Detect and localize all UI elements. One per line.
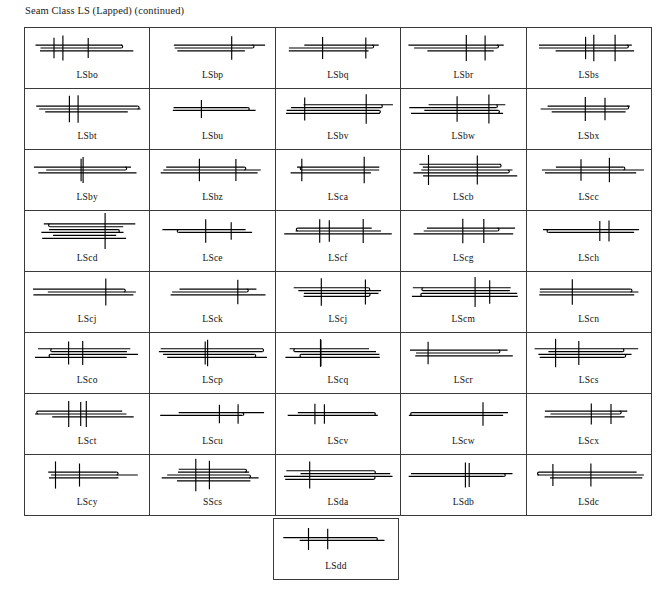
seam-diagram	[279, 90, 397, 132]
seam-cell-inner: LSbr	[401, 28, 525, 88]
seam-cell[interactable]: LScy	[25, 455, 150, 516]
seam-cell[interactable]: LSdb	[401, 455, 526, 516]
seam-diagram	[154, 334, 272, 376]
seam-diagram	[530, 334, 648, 376]
seam-cell[interactable]: LSda	[275, 455, 400, 516]
seam-code-label: LSdc	[578, 497, 599, 508]
seam-code-label: LScw	[452, 436, 475, 447]
seam-cell-inner: LSbs	[527, 28, 651, 88]
seam-cell[interactable]: LSbr	[401, 28, 526, 89]
seam-cell[interactable]: LSbs	[526, 28, 651, 89]
seam-cell[interactable]: LScj	[25, 272, 150, 333]
seam-code-label: LSbw	[452, 131, 476, 142]
seam-code-label: LSct	[78, 436, 97, 447]
seam-cell-inner: LSbv	[276, 89, 400, 149]
seam-cell-inner: LSby	[25, 150, 149, 210]
seam-cell-inner: LSce	[150, 211, 274, 271]
seam-code-label: SScs	[203, 497, 222, 508]
seam-cell[interactable]: SScs	[150, 455, 275, 516]
seam-code-label: LSbv	[327, 131, 348, 142]
seam-code-label: LSbs	[579, 70, 599, 81]
seam-cell[interactable]: LSct	[25, 394, 150, 455]
seam-diagram	[404, 29, 522, 71]
seam-cell[interactable]: LSbq	[275, 28, 400, 89]
seam-cell[interactable]: LScg	[401, 211, 526, 272]
seam-cell[interactable]: LScv	[275, 394, 400, 455]
seam-cell-inner: LScm	[401, 272, 525, 332]
seam-grid-row: LSctLScuLScvLScwLScx	[25, 394, 652, 455]
seam-cell[interactable]: LSbz	[150, 150, 275, 211]
seam-cell[interactable]: LSbw	[401, 89, 526, 150]
seam-cell[interactable]: LSce	[150, 211, 275, 272]
seam-grid-container: LSboLSbpLSbqLSbrLSbsLSbtLSbuLSbvLSbwLSbx…	[24, 27, 646, 516]
seam-cell-inner: LSct	[25, 394, 149, 454]
seam-code-label: LSch	[578, 253, 599, 264]
seam-cell[interactable]: LSco	[25, 333, 150, 394]
seam-diagram	[154, 151, 272, 193]
page-title: Seam Class LS (Lapped) (continued)	[25, 5, 184, 16]
seam-cell-inner: LSca	[276, 150, 400, 210]
seam-grid-row: LSbyLSbzLScaLScbLScc	[25, 150, 652, 211]
seam-cell[interactable]: LSch	[526, 211, 651, 272]
seam-cell[interactable]: LSck	[150, 272, 275, 333]
seam-cell[interactable]: LSbo	[25, 28, 150, 89]
seam-diagram	[404, 456, 522, 498]
seam-cell[interactable]: LSbt	[25, 89, 150, 150]
seam-cell-inner: LSbq	[276, 28, 400, 88]
seam-cell[interactable]: LScp	[150, 333, 275, 394]
seam-cell[interactable]: LScw	[401, 394, 526, 455]
seam-cell[interactable]: LSbx	[526, 89, 651, 150]
seam-code-label: LScc	[579, 192, 599, 203]
seam-cell[interactable]: LSdd	[273, 519, 398, 580]
seam-cell-inner: LScg	[401, 211, 525, 271]
seam-cell[interactable]: LScc	[526, 150, 651, 211]
seam-diagram	[279, 212, 397, 254]
seam-cell[interactable]: LScr	[401, 333, 526, 394]
seam-cell-inner: LSbu	[150, 89, 274, 149]
seam-grid-row: LSboLSbpLSbqLSbrLSbs	[25, 28, 652, 89]
seam-grid-tail-body: LSdd	[273, 519, 398, 580]
seam-diagram	[530, 395, 648, 437]
seam-cell-inner: LScd	[25, 211, 149, 271]
seam-diagram	[530, 90, 648, 132]
seam-cell[interactable]: LScj	[275, 272, 400, 333]
seam-code-label: LScm	[452, 314, 476, 325]
seam-grid-row: LScySScsLSdaLSdbLSdc	[25, 455, 652, 516]
seam-code-label: LScs	[579, 375, 599, 386]
seam-diagram	[404, 212, 522, 254]
seam-diagram	[154, 29, 272, 71]
seam-cell-inner: LScv	[276, 394, 400, 454]
seam-cell[interactable]: LScf	[275, 211, 400, 272]
seam-code-label: LSca	[328, 192, 348, 203]
seam-cell[interactable]: LSdc	[526, 455, 651, 516]
seam-cell[interactable]: LSbv	[275, 89, 400, 150]
seam-cell[interactable]: LSca	[275, 150, 400, 211]
seam-code-label: LSck	[202, 314, 223, 325]
seam-class-page: Seam Class LS (Lapped) (continued) LSboL…	[0, 0, 669, 602]
seam-cell[interactable]: LScn	[526, 272, 651, 333]
seam-code-label: LScp	[202, 375, 223, 386]
seam-code-label: LScb	[453, 192, 474, 203]
seam-cell[interactable]: LSbp	[150, 28, 275, 89]
seam-cell-inner: LSck	[150, 272, 274, 332]
seam-diagram	[277, 520, 395, 562]
seam-cell[interactable]: LScx	[526, 394, 651, 455]
seam-cell-inner: SScs	[150, 455, 274, 515]
seam-cell[interactable]: LScb	[401, 150, 526, 211]
seam-code-label: LSdd	[325, 561, 346, 572]
seam-code-label: LSce	[202, 253, 222, 264]
seam-cell[interactable]: LScm	[401, 272, 526, 333]
seam-code-label: LScx	[578, 436, 599, 447]
seam-code-label: LSdb	[453, 497, 474, 508]
seam-cell[interactable]: LScu	[150, 394, 275, 455]
seam-cell[interactable]: LScd	[25, 211, 150, 272]
seam-cell[interactable]: LSbu	[150, 89, 275, 150]
seam-cell[interactable]: LSby	[25, 150, 150, 211]
seam-cell-inner: LSbp	[150, 28, 274, 88]
seam-code-label: LScf	[328, 253, 347, 264]
seam-diagram	[154, 456, 272, 498]
seam-cell[interactable]: LScs	[526, 333, 651, 394]
seam-cell[interactable]: LScq	[275, 333, 400, 394]
seam-diagram	[404, 273, 522, 315]
seam-code-label: LSbo	[77, 70, 98, 81]
